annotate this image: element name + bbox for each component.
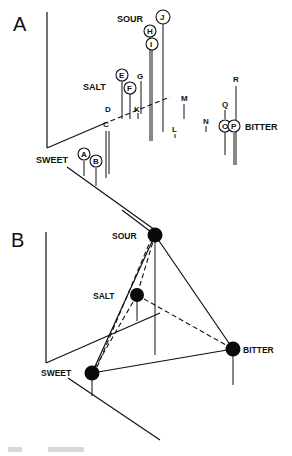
edge-sour-sweet-dashed (95, 237, 152, 372)
label-salt: SALT (83, 82, 106, 92)
label-salt-b: SALT (93, 291, 115, 301)
sweet-axis (67, 167, 155, 230)
label-sweet-b: SWEET (41, 368, 72, 378)
salt-axis-b (46, 313, 160, 363)
point-g: G (137, 72, 143, 81)
svg-text:P: P (231, 122, 237, 131)
vertex-bitter (226, 342, 241, 357)
vertex-sweet (85, 366, 100, 381)
label-sour-b: SOUR (112, 231, 137, 241)
svg-text:F: F (127, 84, 132, 93)
taste-tetrahedron-figure: A SOUR SALT SWEET BITTER A B C D E F G (0, 0, 292, 456)
panel-a-label: A (13, 13, 27, 35)
label-sweet: SWEET (36, 155, 69, 165)
label-bitter: BITTER (245, 122, 278, 132)
edge-salt-sweet (92, 295, 137, 373)
vertex-sour (148, 228, 163, 243)
point-q: Q (222, 100, 228, 109)
svg-text:B: B (93, 157, 99, 166)
edge-sour-salt (137, 235, 155, 295)
vertex-salt (130, 288, 144, 302)
svg-text:I: I (150, 40, 152, 49)
label-sour: SOUR (117, 14, 144, 24)
svg-text:O: O (222, 122, 228, 131)
edge-sweet-bitter (92, 349, 233, 373)
sweet-axis-b (68, 378, 160, 440)
point-c: C (103, 120, 109, 129)
caption-faded (8, 447, 84, 452)
svg-text:H: H (147, 27, 153, 36)
panel-b-label: B (11, 229, 24, 251)
point-k: K (134, 105, 140, 114)
svg-text:A: A (81, 150, 87, 159)
point-d: D (105, 105, 111, 114)
panel-a: A SOUR SALT SWEET BITTER A B C D E F G (13, 10, 278, 230)
label-bitter-b: BITTER (243, 345, 274, 355)
salt-axis (47, 124, 103, 148)
svg-text:J: J (160, 13, 164, 22)
edge-salt-bitter (137, 295, 233, 349)
point-r: R (233, 75, 239, 84)
point-l: L (172, 125, 177, 134)
panel-b: B SOUR SALT SWEET BITTER (11, 210, 274, 440)
point-n: N (203, 117, 209, 126)
point-m: M (181, 94, 188, 103)
edge-sour-bitter (155, 235, 233, 349)
svg-text:E: E (119, 71, 125, 80)
